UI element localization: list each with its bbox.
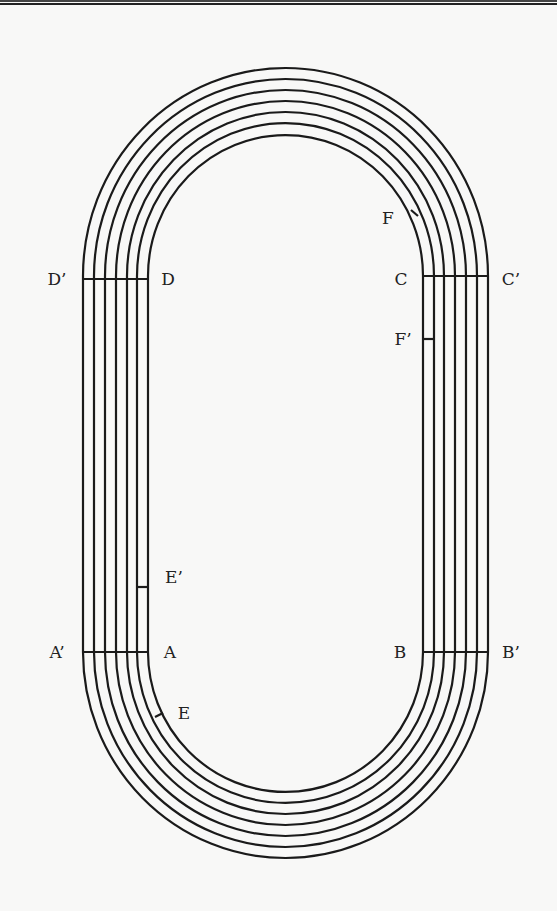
label-B: B (394, 644, 407, 661)
lane-line-4 (116, 101, 455, 825)
label-E: E (178, 705, 190, 722)
label-F-prime: F’ (394, 331, 411, 348)
lane-lines (83, 68, 488, 858)
lane-line-7 (148, 135, 423, 792)
track-diagram (0, 0, 557, 911)
label-D-prime: D’ (47, 271, 66, 288)
lane-line-5 (127, 112, 444, 814)
label-E-prime: E’ (165, 569, 183, 586)
label-A-prime: A’ (49, 644, 64, 661)
label-B-prime: B’ (502, 644, 520, 661)
label-D: D (161, 271, 175, 288)
label-F: F (382, 210, 394, 227)
label-C-prime: C’ (502, 271, 520, 288)
lane-line-3 (105, 90, 466, 836)
label-A: A (164, 644, 176, 661)
lane-line-1 (83, 68, 488, 858)
lane-line-2 (94, 79, 477, 847)
tick-F (411, 210, 418, 216)
label-C: C (394, 271, 407, 288)
marker-lines (83, 210, 488, 717)
